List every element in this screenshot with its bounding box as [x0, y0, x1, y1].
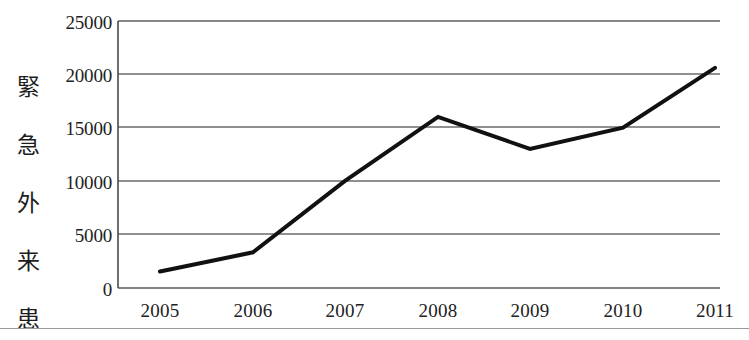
x-tick-label-2011: 2011: [675, 300, 749, 322]
plot-area: [0, 0, 749, 340]
axis-lines: [118, 21, 720, 288]
x-tick-label-2007: 2007: [305, 300, 385, 322]
x-tick-label-2006: 2006: [213, 300, 293, 322]
line-chart-figure: 緊 急 外 来 患 者 数 0 5000 10000 15000 20000 2…: [0, 0, 749, 340]
x-tick-label-2005: 2005: [120, 300, 200, 322]
x-axis-tick-labels: 2005 2006 2007 2008 2009 2010 2011: [0, 300, 749, 326]
data-series-line: [160, 68, 715, 272]
footer-divider: [0, 328, 749, 329]
gridlines: [118, 21, 720, 234]
x-tick-label-2009: 2009: [490, 300, 570, 322]
x-tick-label-2008: 2008: [398, 300, 478, 322]
x-tick-label-2010: 2010: [583, 300, 663, 322]
